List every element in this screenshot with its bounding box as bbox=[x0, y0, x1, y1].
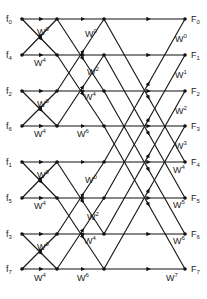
output-label: F3 bbox=[191, 121, 201, 132]
output-label: F0 bbox=[191, 14, 201, 25]
arrow-icon bbox=[147, 83, 149, 86]
input-label: f2 bbox=[6, 86, 13, 97]
arrow-icon bbox=[82, 57, 83, 58]
twiddle-label: W0 bbox=[85, 174, 98, 185]
node-dot bbox=[20, 160, 24, 164]
node-dot bbox=[55, 53, 59, 57]
node-dot bbox=[55, 232, 59, 236]
twiddle-label: W0 bbox=[37, 26, 50, 37]
twiddle-label: W0 bbox=[85, 28, 98, 39]
node-dot bbox=[183, 53, 187, 57]
twiddle-label: W6 bbox=[173, 235, 186, 246]
twiddle-label: W4 bbox=[34, 128, 47, 139]
arrow-icon bbox=[147, 190, 149, 193]
twiddle-labels: W0W4W0W4W0W4W0W4W0W2W4W6W0W2W4W6W0W1W2W3… bbox=[34, 26, 188, 283]
node-dot bbox=[183, 89, 187, 93]
arrow-icon bbox=[82, 51, 83, 52]
twiddle-label: W3 bbox=[175, 140, 188, 151]
output-label: F6 bbox=[191, 229, 201, 240]
node-dot bbox=[20, 17, 24, 21]
twiddle-label: W4 bbox=[34, 200, 47, 211]
twiddle-label: W0 bbox=[37, 98, 50, 109]
node-dot bbox=[183, 124, 187, 128]
twiddle-label: W0 bbox=[37, 241, 50, 252]
node-dot bbox=[55, 124, 59, 128]
arrow-icon bbox=[82, 87, 83, 88]
node-dot bbox=[20, 124, 24, 128]
arrow-icon bbox=[82, 93, 83, 94]
node-dot bbox=[102, 124, 106, 128]
node-dot bbox=[20, 232, 24, 236]
node-dot bbox=[102, 160, 106, 164]
arrow-icon bbox=[147, 155, 149, 158]
node-dot bbox=[102, 53, 106, 57]
output-label: F7 bbox=[191, 264, 201, 275]
output-label: F4 bbox=[191, 157, 201, 168]
node-dot bbox=[102, 89, 106, 93]
input-label: f3 bbox=[6, 229, 13, 240]
output-label: F1 bbox=[191, 50, 201, 61]
node-dot bbox=[20, 89, 24, 93]
output-label: F2 bbox=[191, 86, 201, 97]
arrow-icon bbox=[147, 119, 149, 122]
arrow-icon bbox=[82, 200, 83, 201]
node-dot bbox=[102, 17, 106, 21]
input-labels: f0f4f2f6f1f5f3f7 bbox=[6, 14, 13, 275]
input-label: f0 bbox=[6, 14, 13, 25]
output-label: F5 bbox=[191, 193, 201, 204]
node-dot bbox=[55, 196, 59, 200]
output-labels: F0F1F2F3F4F5F6F7 bbox=[191, 14, 201, 275]
twiddle-label: W4 bbox=[84, 91, 97, 102]
twiddle-label: W0 bbox=[175, 33, 188, 44]
arrow-icon bbox=[41, 110, 42, 111]
twiddle-label: W2 bbox=[175, 105, 188, 116]
arrow-icon bbox=[147, 167, 149, 170]
node-dot bbox=[102, 267, 106, 271]
twiddle-label: W7 bbox=[166, 272, 179, 283]
arrow-icon bbox=[82, 236, 83, 237]
arrow-icon bbox=[41, 181, 42, 182]
node-dot bbox=[20, 196, 24, 200]
arrow-icon bbox=[147, 95, 149, 98]
twiddle-label: W1 bbox=[175, 69, 188, 80]
arrow-icon bbox=[82, 230, 83, 231]
node-dot bbox=[183, 17, 187, 21]
node-dot bbox=[102, 232, 106, 236]
arrow-icon bbox=[147, 202, 149, 205]
twiddle-label: W4 bbox=[34, 57, 47, 68]
input-label: f1 bbox=[6, 157, 13, 168]
input-label: f5 bbox=[6, 193, 13, 204]
fft-butterfly-diagram: f0f4f2f6f1f5f3f7 F0F1F2F3F4F5F6F7 W0W4W0… bbox=[0, 0, 207, 299]
node-dot bbox=[20, 53, 24, 57]
input-label: f4 bbox=[6, 50, 13, 61]
twiddle-label: W0 bbox=[37, 169, 50, 180]
twiddle-label: W6 bbox=[77, 128, 90, 139]
twiddle-label: W4 bbox=[84, 235, 97, 246]
twiddle-label: W4 bbox=[34, 272, 47, 283]
node-dot bbox=[102, 196, 106, 200]
twiddle-label: W2 bbox=[87, 66, 100, 77]
twiddle-label: W2 bbox=[87, 211, 100, 222]
twiddle-label: W5 bbox=[173, 199, 186, 210]
input-label: f6 bbox=[6, 121, 13, 132]
arrow-icon bbox=[41, 38, 42, 39]
node-dot bbox=[183, 267, 187, 271]
twiddle-label: W4 bbox=[173, 164, 186, 175]
arrow-icon bbox=[41, 253, 42, 254]
node-dot bbox=[55, 160, 59, 164]
node-dot bbox=[55, 267, 59, 271]
twiddle-label: W6 bbox=[77, 272, 90, 283]
arrow-icon bbox=[82, 194, 83, 195]
butterfly-svg: f0f4f2f6f1f5f3f7 F0F1F2F3F4F5F6F7 W0W4W0… bbox=[0, 0, 207, 299]
node-dot bbox=[55, 17, 59, 21]
node-dot bbox=[55, 89, 59, 93]
node-dot bbox=[20, 267, 24, 271]
arrow-icon bbox=[147, 131, 149, 134]
input-label: f7 bbox=[6, 264, 13, 275]
